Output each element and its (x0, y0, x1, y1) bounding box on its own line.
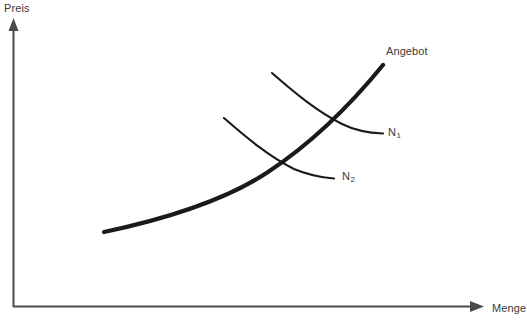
x-axis-label: Menge (492, 302, 526, 315)
demand-n2-subscript: 2 (351, 175, 356, 184)
demand-n2-base: N (342, 170, 350, 182)
chart-canvas (0, 0, 527, 329)
demand-n1-base: N (388, 126, 396, 138)
demand-curve-n1-label: N1 (388, 126, 401, 139)
demand-curve-n2 (224, 118, 334, 179)
supply-demand-chart: Preis Menge Angebot N1 N2 (0, 0, 527, 329)
supply-curve (104, 65, 383, 232)
demand-curve-n2-label: N2 (342, 170, 355, 183)
x-axis-arrow-icon (470, 301, 484, 312)
supply-curve-label: Angebot (386, 45, 428, 58)
demand-n1-subscript: 1 (397, 131, 402, 140)
y-axis-label: Preis (4, 2, 30, 15)
y-axis-arrow-icon (9, 18, 19, 31)
